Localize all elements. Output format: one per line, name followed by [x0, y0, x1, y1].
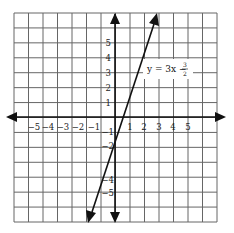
x-tick-label: −3 [57, 122, 70, 132]
line-top-arrow-icon [149, 13, 159, 26]
y-tick-label: 1 [106, 98, 111, 108]
y-tick-label: −1 [101, 127, 114, 137]
equation-text: y = 3x − [146, 64, 187, 74]
y-tick-label: 5 [106, 38, 111, 48]
x-tick-label: 3 [156, 122, 161, 132]
x-tick-label: −4 [42, 122, 55, 132]
y-tick-label: 2 [106, 83, 111, 93]
x-tick-label: 2 [141, 122, 146, 132]
x-tick-label: 5 [185, 122, 190, 132]
y-tick-label: −5 [101, 188, 114, 198]
y-tick-label: 4 [106, 53, 111, 63]
x-tick-label: −1 [88, 122, 101, 132]
coordinate-plane: −5 −4 −3 −2 −1 1 2 3 4 5 5 4 3 2 1 −1 −2… [0, 0, 234, 233]
x-tick-label: 1 [127, 122, 132, 132]
y-axis-up-arrow-icon [110, 13, 120, 24]
line-bottom-arrow-icon [86, 210, 96, 223]
equation-label: y = 3x − 3 2 [143, 59, 193, 79]
y-axis-down-arrow-icon [110, 212, 120, 223]
y-tick-label: 3 [106, 68, 111, 78]
x-tick-label: −2 [72, 122, 85, 132]
equation-numerator: 3 [183, 61, 187, 68]
x-axis-left-arrow-icon [6, 112, 17, 122]
x-tick-label: −5 [28, 122, 41, 132]
x-tick-label: 4 [170, 122, 175, 132]
equation-denominator: 2 [183, 70, 187, 77]
x-axis-right-arrow-icon [215, 112, 226, 122]
